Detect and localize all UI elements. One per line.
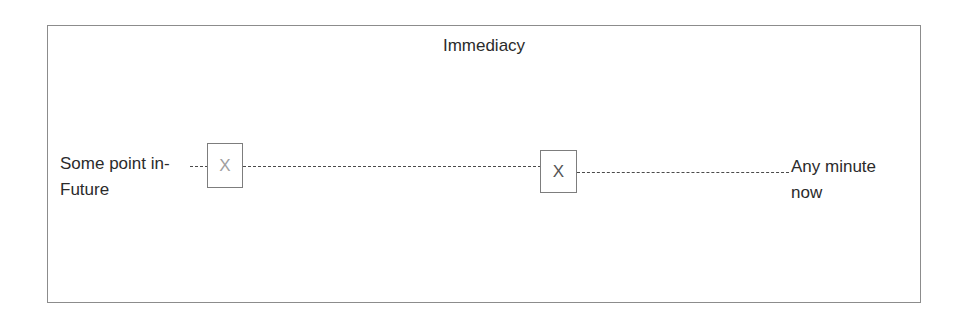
connector-dash-middle [243,166,541,167]
immediacy-marker-first[interactable]: X [207,143,243,188]
scale-anchor-right-line1: Any minute [791,154,919,180]
connector-dash-left [190,166,208,167]
x-marker-icon: X [553,163,564,180]
scale-anchor-left: Some point in- Future [60,151,200,203]
chart-title: Immediacy [47,35,921,57]
connector-dash-right [577,172,789,173]
scale-anchor-left-line2: Future [60,177,200,203]
diagram-canvas: Immediacy Some point in- Future X X Any … [0,0,965,327]
immediacy-marker-second[interactable]: X [540,150,577,193]
x-marker-icon: X [219,157,230,174]
scale-anchor-right-line2: now [791,180,919,206]
scale-anchor-left-line1: Some point in- [60,151,200,177]
scale-anchor-right: Any minute now [791,154,919,206]
